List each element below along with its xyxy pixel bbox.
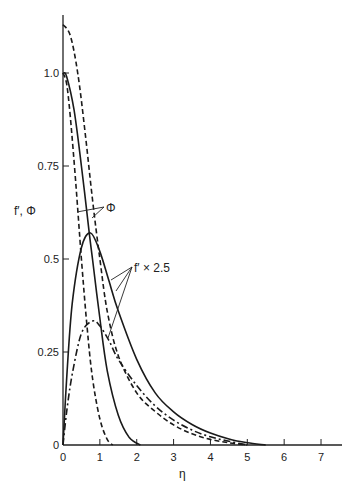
x-tick-label: 6 — [281, 451, 287, 463]
axes — [63, 15, 342, 445]
fprime-annotation: f′ × 2.5 — [134, 261, 170, 275]
x-ticks: 01234567 — [60, 439, 324, 463]
phi-annotation: Φ — [106, 201, 116, 215]
curves — [63, 25, 266, 445]
x-tick-label: 0 — [60, 451, 66, 463]
y-tick-label: 0 — [53, 439, 59, 451]
annotation-leaders — [77, 207, 132, 338]
y-ticks: 00.250.50.751.0 — [38, 67, 69, 451]
y-tick-label: 0.75 — [38, 160, 59, 172]
y-axis-label: f′, Φ — [14, 204, 36, 218]
x-tick-label: 2 — [134, 451, 140, 463]
curve-dash-dot — [63, 321, 247, 445]
x-tick-label: 3 — [171, 451, 177, 463]
x-axis-label: η — [179, 467, 186, 481]
x-tick-label: 5 — [244, 451, 250, 463]
x-tick-label: 1 — [97, 451, 103, 463]
y-tick-label: 0.25 — [38, 346, 59, 358]
chart: 01234567 00.250.50.751.0 Φ f′ × 2.5 f′, … — [0, 0, 359, 503]
y-tick-label: 0.5 — [44, 253, 59, 265]
x-tick-label: 7 — [318, 451, 324, 463]
y-tick-label: 1.0 — [44, 67, 59, 79]
curve-dashed — [63, 25, 247, 445]
x-tick-label: 4 — [207, 451, 213, 463]
